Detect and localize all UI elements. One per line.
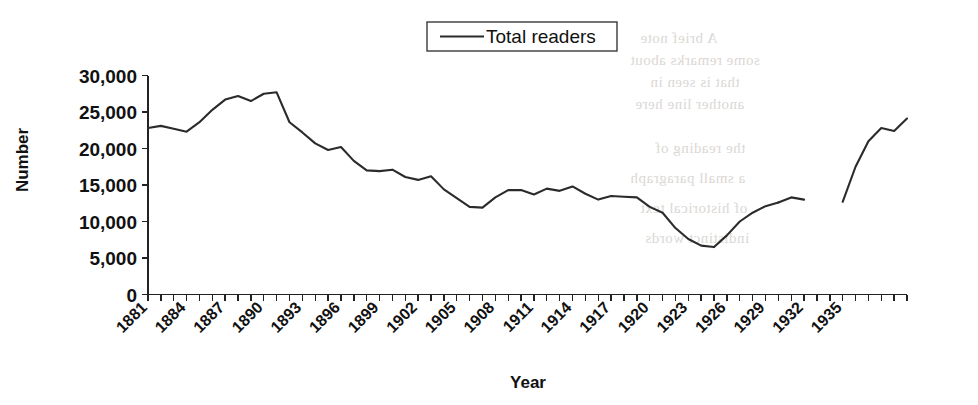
x-tick-label: 1881 — [113, 299, 150, 336]
chart-container: A brief note some remarks about that is … — [0, 0, 978, 405]
y-axis-title: Number — [13, 128, 32, 193]
x-tick-label: 1923 — [653, 299, 690, 336]
x-tick-label: 1935 — [808, 299, 845, 336]
y-tick-label: 10,000 — [79, 212, 137, 233]
y-tick-label: 15,000 — [79, 175, 137, 196]
x-tick-label: 1917 — [576, 299, 613, 336]
data-series-group — [148, 92, 907, 247]
x-axis-tick-labels: 1881188418871890189318961899190219051908… — [113, 299, 845, 336]
x-tick-label: 1914 — [537, 299, 574, 336]
y-tick-label: 25,000 — [79, 102, 137, 123]
data-series-line — [843, 119, 907, 202]
x-tick-label: 1926 — [692, 299, 729, 336]
x-tick-label: 1884 — [152, 299, 189, 336]
data-series-line — [778, 197, 804, 202]
x-tick-label: 1887 — [190, 299, 227, 336]
x-tick-label: 1920 — [615, 299, 652, 336]
x-tick-label: 1902 — [383, 299, 420, 336]
line-chart: Total readers 05,00010,00015,00020,00025… — [0, 0, 978, 405]
x-tick-label: 1893 — [267, 299, 304, 336]
x-tick-label: 1905 — [422, 299, 459, 336]
x-tick-label: 1929 — [730, 299, 767, 336]
y-tick-label: 20,000 — [79, 139, 137, 160]
x-tick-label: 1932 — [769, 299, 806, 336]
x-tick-label: 1908 — [460, 299, 497, 336]
axis-tick-marks — [142, 76, 907, 301]
x-tick-label: 1890 — [229, 299, 266, 336]
axis-lines — [148, 76, 907, 295]
y-tick-label: 5,000 — [89, 248, 137, 269]
data-series-line — [714, 203, 778, 248]
x-axis-title: Year — [510, 373, 546, 392]
chart-legend: Total readers — [427, 22, 617, 51]
y-axis-tick-labels: 05,00010,00015,00020,00025,00030,000 — [79, 66, 137, 306]
data-series-line — [148, 92, 714, 247]
x-tick-label: 1896 — [306, 299, 343, 336]
legend-label: Total readers — [486, 26, 596, 47]
x-tick-label: 1911 — [499, 299, 536, 336]
x-tick-label: 1899 — [344, 299, 381, 336]
y-tick-label: 30,000 — [79, 66, 137, 87]
